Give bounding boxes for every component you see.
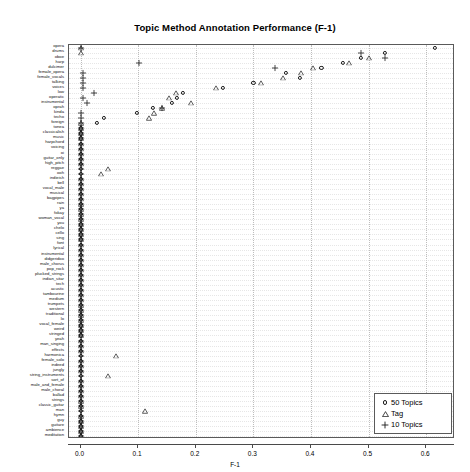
gridline-horizontal [69, 234, 453, 235]
gridline-horizontal [69, 346, 453, 347]
x-axis-tick-label: 0.1 [133, 450, 142, 457]
gridline-horizontal [69, 315, 453, 316]
gridline-horizontal [69, 229, 453, 230]
gridline-horizontal [69, 219, 453, 220]
x-axis-tick [368, 444, 369, 448]
x-axis-line [68, 444, 454, 445]
x-axis-tick-label: 0.5 [363, 450, 372, 457]
legend-label-tag: Tag [391, 409, 403, 418]
gridline-horizontal [69, 199, 453, 200]
gridline-horizontal [69, 224, 453, 225]
gridline-horizontal [69, 325, 453, 326]
x-axis-label: F-1 [0, 461, 470, 468]
gridline-horizontal [69, 169, 453, 170]
gridline-horizontal [69, 214, 453, 215]
x-axis-tick [310, 444, 311, 448]
gridline-horizontal [69, 63, 453, 64]
chart-title: Topic Method Annotation Performance (F-1… [0, 22, 470, 33]
gridline-horizontal [69, 133, 453, 134]
gridline-horizontal [69, 270, 453, 271]
gridline-horizontal [69, 83, 453, 84]
circle-icon [379, 397, 391, 408]
gridline-horizontal [69, 320, 453, 321]
gridline-horizontal [69, 245, 453, 246]
gridline-horizontal [69, 275, 453, 276]
gridline-horizontal [69, 341, 453, 342]
gridline-horizontal [69, 189, 453, 190]
gridline-horizontal [69, 184, 453, 185]
gridline-horizontal [69, 93, 453, 94]
gridline-horizontal [69, 310, 453, 311]
gridline-horizontal [69, 108, 453, 109]
y-axis-labels: operadrumsoboeharpdulcimerfemale_operafe… [0, 44, 66, 438]
gridline-horizontal [69, 128, 453, 129]
gridline-horizontal [69, 290, 453, 291]
gridline-horizontal [69, 179, 453, 180]
legend-item-0: 50 Topics [379, 397, 447, 408]
gridline-horizontal [69, 391, 453, 392]
gridline-horizontal [69, 53, 453, 54]
gridline-horizontal [69, 239, 453, 240]
x-axis-tick-label: 0.4 [305, 450, 314, 457]
gridline-horizontal [69, 436, 453, 437]
gridline-horizontal [69, 73, 453, 74]
chart-page: Topic Method Annotation Performance (F-1… [0, 0, 470, 472]
gridline-horizontal [69, 361, 453, 362]
gridline-horizontal [69, 381, 453, 382]
x-axis-tick [80, 444, 81, 448]
legend-label-50-topics: 50 Topics [391, 398, 423, 407]
gridline-horizontal [69, 335, 453, 336]
gridline-horizontal [69, 144, 453, 145]
gridline-horizontal [69, 123, 453, 124]
gridline-horizontal [69, 98, 453, 99]
gridline-horizontal [69, 164, 453, 165]
gridline-horizontal [69, 351, 453, 352]
gridline-horizontal [69, 113, 453, 114]
triangle-icon [379, 408, 391, 419]
legend-item-1: Tag [379, 408, 447, 419]
legend: 50 Topics Tag 10 Topics [374, 393, 452, 434]
gridline-horizontal [69, 330, 453, 331]
gridline-horizontal [69, 386, 453, 387]
gridline-horizontal [69, 209, 453, 210]
gridline-horizontal [69, 265, 453, 266]
gridline-horizontal [69, 88, 453, 89]
gridline-horizontal [69, 280, 453, 281]
plot-area [68, 44, 454, 438]
gridline-horizontal [69, 118, 453, 119]
x-axis-tick-label: 0.6 [421, 450, 430, 457]
x-axis-tick [252, 444, 253, 448]
gridline-horizontal [69, 366, 453, 367]
gridline-horizontal [69, 154, 453, 155]
gridline-horizontal [69, 204, 453, 205]
gridline-horizontal [69, 356, 453, 357]
y-axis-label: man_singing [40, 342, 64, 346]
gridline-horizontal [69, 305, 453, 306]
x-axis-tick-label: 0.3 [248, 450, 257, 457]
x-axis-tick-label: 0.0 [75, 450, 84, 457]
gridline-horizontal [69, 250, 453, 251]
x-axis-tick [425, 444, 426, 448]
gridline-horizontal [69, 103, 453, 104]
legend-item-2: 10 Topics [379, 419, 447, 430]
gridline-horizontal [69, 58, 453, 59]
gridline-horizontal [69, 78, 453, 79]
gridline-horizontal [69, 194, 453, 195]
gridline-horizontal [69, 159, 453, 160]
gridline-horizontal [69, 68, 453, 69]
plus-icon [379, 419, 391, 430]
gridline-horizontal [69, 295, 453, 296]
gridline-horizontal [69, 174, 453, 175]
gridline-horizontal [69, 300, 453, 301]
y-axis-label: voicing [51, 145, 64, 149]
gridline-horizontal [69, 285, 453, 286]
y-axis-label: meditation [45, 433, 64, 437]
x-axis-tick-label: 0.2 [190, 450, 199, 457]
gridline-horizontal [69, 260, 453, 261]
gridline-horizontal [69, 138, 453, 139]
gridline-horizontal [69, 376, 453, 377]
gridline-horizontal [69, 255, 453, 256]
gridline-horizontal [69, 149, 453, 150]
gridline-horizontal [69, 48, 453, 49]
x-axis-tick [195, 444, 196, 448]
